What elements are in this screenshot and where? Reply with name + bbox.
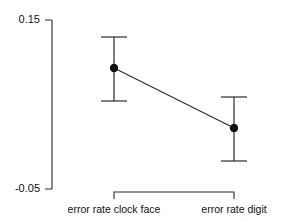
data-point-error-rate-clock-face: [110, 64, 118, 72]
x-category-label-second: error rate digit: [201, 203, 266, 215]
x-category-label-first: error rate clock face: [68, 203, 161, 215]
error-rate-dot-plot: 0.15 -0.05 error rate clock face error r…: [0, 0, 285, 222]
x-axis-bracket: [114, 192, 234, 199]
series-connector-line: [114, 68, 234, 128]
y-tick-label-bottom: -0.05: [15, 182, 40, 194]
y-axis-line: [45, 20, 52, 189]
data-point-error-rate-digit: [230, 124, 238, 132]
chart-container: 0.15 -0.05 error rate clock face error r…: [0, 0, 285, 222]
y-tick-label-top: 0.15: [19, 13, 40, 25]
y-axis: [45, 20, 52, 189]
